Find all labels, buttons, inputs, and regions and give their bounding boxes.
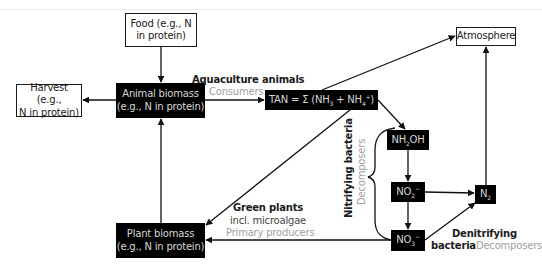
no2-node: NO2−: [391, 182, 425, 202]
denitrifying-role: Decomposers: [476, 240, 542, 251]
no2-sup: −: [415, 184, 420, 191]
atmosphere-node: Atmosphere: [456, 27, 516, 46]
animal-biomass-node: Animal biomass (e.g., N in protein): [116, 83, 205, 118]
aquaculture-title: Aquaculture animals: [192, 74, 304, 87]
tan-sub2: 4: [362, 100, 366, 107]
aquaculture-role-label: Consumers: [209, 86, 263, 99]
nitrifying-label: Nitrifying bacteria: [343, 118, 356, 218]
green-plants-label: Green plants incl. microalgae Primary pr…: [226, 202, 310, 240]
tan-prefix: TAN = Σ (NH: [269, 94, 330, 105]
tan-suffix: ): [370, 94, 374, 105]
food-line1: Food (e.g., N: [130, 18, 191, 31]
nh2oh-suffix: OH: [410, 134, 425, 145]
aquaculture-label: Aquaculture animals: [192, 74, 304, 87]
no3-sup: −: [415, 233, 420, 240]
no2-prefix: NO: [396, 186, 411, 197]
nitrifying-title: Nitrifying bacteria: [343, 118, 354, 218]
animal-biomass-line2: (e.g., N in protein): [117, 101, 205, 114]
animal-biomass-line1: Animal biomass: [117, 88, 205, 101]
harvest-node: Harvest (e.g., N in protein): [16, 84, 82, 117]
no2-sub: 2: [411, 192, 415, 199]
atmosphere-label: Atmosphere: [457, 30, 516, 43]
food-line2: in protein): [130, 30, 191, 43]
harvest-line2: N in protein): [17, 107, 81, 120]
nh2oh-prefix: NH: [391, 134, 406, 145]
green-plants-role: Primary producers: [226, 227, 310, 240]
plant-biomass-node: Plant biomass (e.g., N in protein): [116, 223, 205, 258]
tan-mid: + NH: [333, 94, 362, 105]
green-plants-title: Green plants: [226, 202, 310, 215]
aquaculture-role: Consumers: [209, 86, 263, 99]
nitrifying-role-label: Decomposers: [356, 139, 369, 205]
arrow-tan-to-nh2oh: [378, 100, 405, 129]
n2-sub: 2: [487, 194, 491, 201]
no3-node: NO3−: [391, 230, 425, 251]
denitrifying-label: Denitrifying: [452, 228, 517, 241]
denitrifying-line2: bacteriaDecomposers: [431, 240, 542, 253]
n2-node: N2: [475, 185, 496, 204]
arrow-no2-to-n2: [425, 192, 474, 193]
nitrifying-role: Decomposers: [356, 139, 367, 205]
no3-sub: 3: [411, 240, 415, 247]
plant-biomass-line1: Plant biomass: [117, 228, 205, 241]
tan-node: TAN = Σ (NH3 + NH4+): [265, 90, 378, 110]
arrow-tan-to-atmosphere: [322, 36, 455, 90]
denitrifying-title2: bacteria: [431, 240, 476, 251]
nh2oh-node: NH2OH: [387, 130, 429, 150]
harvest-line1: Harvest (e.g.,: [17, 82, 81, 107]
green-plants-sub: incl. microalgae: [226, 215, 310, 228]
food-node: Food (e.g., N in protein): [125, 13, 197, 47]
denitrifying-title1: Denitrifying: [452, 228, 517, 241]
plant-biomass-line2: (e.g., N in protein): [117, 241, 205, 254]
no3-prefix: NO: [396, 234, 411, 245]
